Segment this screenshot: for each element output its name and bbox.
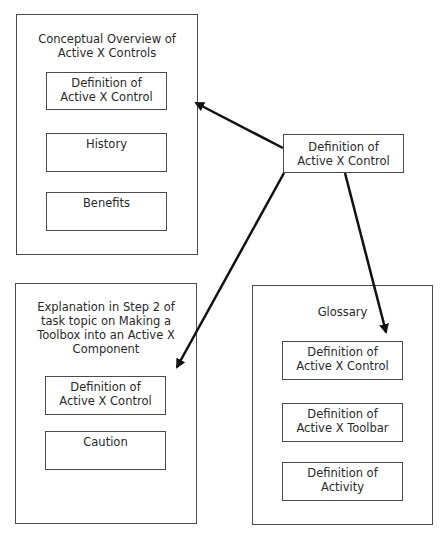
- title-line: Conceptual Overview of: [17, 32, 197, 46]
- panel-glossary: Glossary Definition of Active X Control …: [252, 285, 433, 525]
- arrow-to-conceptual-icon: [196, 103, 283, 148]
- title-line: Component: [16, 342, 196, 356]
- panel-title: Conceptual Overview of Active X Controls: [17, 32, 197, 60]
- box-text: Definition of: [283, 407, 402, 421]
- box-text: Active X Control: [46, 394, 165, 408]
- topic-box-caution: Caution: [45, 431, 166, 470]
- box-text: Definition of: [283, 466, 402, 480]
- box-text: Caution: [46, 435, 165, 449]
- topic-box-definition-active-x-control: Definition of Active X Control: [46, 72, 167, 110]
- title-line: Active X Controls: [17, 46, 197, 60]
- panel-conceptual-overview: Conceptual Overview of Active X Controls…: [16, 14, 198, 255]
- box-text: Active X Control: [283, 359, 402, 373]
- panel-explanation-step-2: Explanation in Step 2 of task topic on M…: [15, 283, 197, 524]
- topic-box-definition-active-x-control: Definition of Active X Control: [282, 341, 403, 380]
- topic-box-definition-activity: Definition of Activity: [282, 462, 403, 501]
- box-text: Benefits: [47, 196, 166, 210]
- title-line: Toolbox into an Active X: [16, 328, 196, 342]
- topic-box-benefits: Benefits: [46, 192, 167, 231]
- box-text: Definition of: [46, 380, 165, 394]
- box-text: Active X Control: [284, 154, 403, 168]
- topic-box-definition-active-x-control: Definition of Active X Control: [45, 376, 166, 415]
- panel-title: Glossary: [253, 305, 432, 319]
- box-text: Definition of: [47, 76, 166, 90]
- box-text: Definition of: [284, 140, 403, 154]
- box-text: Active X Control: [47, 90, 166, 104]
- source-box-definition-active-x-control: Definition of Active X Control: [283, 134, 404, 173]
- box-text: History: [47, 137, 166, 151]
- box-text: Definition of: [283, 345, 402, 359]
- title-line: task topic on Making a: [16, 314, 196, 328]
- topic-box-definition-active-x-toolbar: Definition of Active X Toolbar: [282, 403, 403, 442]
- box-text: Active X Toolbar: [283, 421, 402, 435]
- title-line: Explanation in Step 2 of: [16, 300, 196, 314]
- box-text: Activity: [283, 480, 402, 494]
- title-line: Glossary: [253, 305, 432, 319]
- panel-title: Explanation in Step 2 of task topic on M…: [16, 300, 196, 356]
- topic-box-history: History: [46, 133, 167, 172]
